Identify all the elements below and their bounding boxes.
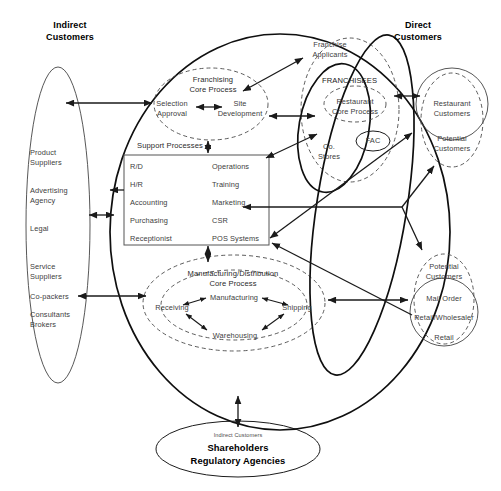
- arrow-pos-to-restaurant-customers: [270, 133, 412, 238]
- supplier-co-packers: Co-packers: [30, 292, 69, 302]
- franchise-applicants-label: Franchise Applicants: [312, 40, 347, 59]
- support-processes-caption: Support Processes: [137, 141, 203, 151]
- co-stores-label: Co. Stores: [318, 142, 340, 161]
- support-left-rd: R/D: [130, 162, 143, 172]
- manufacturing-core-process-title: Manufacturing/Distribution Core Process: [188, 269, 279, 288]
- support-right-marketing: Marketing: [212, 198, 245, 208]
- support-left-accounting: Accounting: [130, 198, 168, 208]
- support-right-csr: CSR: [212, 216, 228, 226]
- support-right-pos-systems: POS Systems: [212, 234, 259, 244]
- manufacturing-node-warehousing: Warehousing: [213, 331, 257, 341]
- supplier-service-suppliers: Service Suppliers: [30, 262, 62, 281]
- channel-mail-order: Mail Order: [426, 294, 462, 304]
- title-direct-customers: Direct Customers: [394, 20, 442, 43]
- arrow-branch-to-potential-top: [402, 166, 434, 207]
- franchising-core-process-title: Franchising Core Process: [189, 75, 236, 94]
- franchising-node-site-development: Site Development: [218, 99, 263, 118]
- support-left-hr: H/R: [130, 180, 143, 190]
- support-right-operations: Operations: [212, 162, 249, 172]
- support-right-training: Training: [212, 180, 239, 190]
- restaurant-customers-label: Restaurant Customers: [433, 99, 470, 118]
- restaurant-core-process-label: Restaurant Core Process: [332, 97, 378, 116]
- arrow-receiving-to-warehousing: [186, 314, 207, 330]
- arrow-applicants-to-franchising: [243, 58, 303, 91]
- supplier-product-suppliers: Product Suppliers: [30, 148, 62, 167]
- arrow-branch-to-potential-bottom: [402, 207, 422, 250]
- manufacturing-node-shipping: Shipping: [282, 303, 312, 313]
- organization-boundary-ellipse: [110, 34, 450, 430]
- title-indirect-customers: Indirect Customers: [46, 20, 94, 43]
- shareholders-line-1: Shareholders: [207, 442, 268, 454]
- diagram-canvas: [0, 0, 501, 491]
- support-left-receptionist: Receptionist: [130, 234, 172, 244]
- shareholders-line-2: Regulatory Agencies: [191, 455, 286, 467]
- process-diagram: Indirect Customers Direct Customers Prod…: [0, 0, 501, 491]
- supplier-advertising-agency: Advertising Agency: [30, 186, 68, 205]
- support-left-purchasing: Purchasing: [130, 216, 168, 226]
- supplier-legal: Legal: [30, 224, 49, 234]
- channel-retail: Retail: [434, 333, 454, 343]
- supplier-consultants-brokers: Consultants Brokers: [30, 310, 70, 329]
- franchising-node-selection-approval: Selection Approval: [156, 99, 187, 118]
- potential-customers-bottom-label: Potential Customers: [426, 262, 463, 281]
- franchisees-label: FRANCHISEES: [322, 76, 377, 86]
- manufacturing-node-manufacturing: Manufacturing: [210, 293, 258, 303]
- arrow-costores-to-support-top: [266, 134, 317, 158]
- potential-customers-top-label: Potential Customers: [434, 134, 471, 153]
- fac-label: FAC: [366, 136, 381, 146]
- channel-retail-wholesaler: Retail/Wholesaler: [414, 313, 474, 323]
- manufacturing-node-receiving: Receiving: [155, 303, 188, 313]
- shareholders-indirect-customers-label: Indirect Customers: [214, 431, 263, 441]
- arrow-warehousing-to-shipping: [262, 314, 284, 330]
